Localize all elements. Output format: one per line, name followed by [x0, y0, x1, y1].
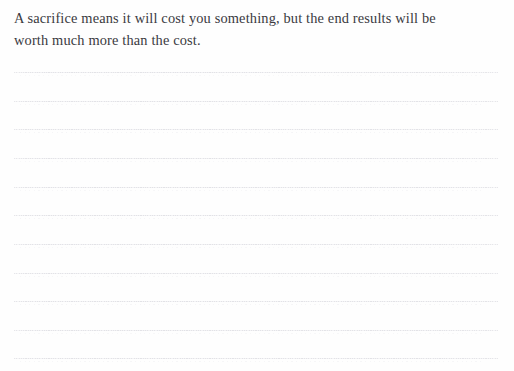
- ruled-line-ghost: [20, 361, 485, 362]
- quote-line-1: A sacrifice means it will cost you somet…: [14, 7, 492, 29]
- ruled-line: [14, 215, 498, 220]
- ruled-line-wash: [14, 215, 498, 216]
- ruled-line-ghost: [20, 276, 485, 277]
- quote-block: A sacrifice means it will cost you somet…: [14, 7, 492, 51]
- ruled-line: [14, 273, 498, 278]
- ruled-line-stroke: [14, 330, 498, 331]
- ruled-line-wash: [14, 330, 498, 331]
- ruled-line: [14, 101, 498, 106]
- ruled-line: [14, 72, 498, 77]
- ruled-line-stroke: [14, 358, 498, 359]
- ruled-line-stroke: [14, 101, 498, 102]
- ruled-line-ghost: [20, 161, 485, 162]
- journal-page: A sacrifice means it will cost you somet…: [0, 0, 514, 371]
- ruled-line-ghost: [20, 333, 485, 334]
- ruled-line-stroke: [14, 244, 498, 245]
- ruled-line: [14, 301, 498, 306]
- ruled-line: [14, 330, 498, 335]
- ruled-line-stroke: [14, 273, 498, 274]
- ruled-line: [14, 187, 498, 192]
- ruled-line-ghost: [20, 104, 485, 105]
- ruled-line-wash: [14, 273, 498, 274]
- ruled-line-stroke: [14, 129, 498, 130]
- ruled-line-ghost: [20, 132, 485, 133]
- ruled-line-stroke: [14, 215, 498, 216]
- ruled-lines-area: [0, 0, 514, 371]
- ruled-line-stroke: [14, 72, 498, 73]
- ruled-line: [14, 358, 498, 363]
- ruled-line-ghost: [20, 247, 485, 248]
- ruled-line-stroke: [14, 158, 498, 159]
- ruled-line-ghost: [20, 190, 485, 191]
- ruled-line-stroke: [14, 301, 498, 302]
- ruled-line-stroke: [14, 187, 498, 188]
- ruled-line-wash: [14, 101, 498, 102]
- ruled-line-wash: [14, 129, 498, 130]
- ruled-line-wash: [14, 158, 498, 159]
- ruled-line: [14, 129, 498, 134]
- paper-texture: [0, 0, 514, 371]
- ruled-line: [14, 158, 498, 163]
- ruled-line-wash: [14, 301, 498, 302]
- quote-line-2: worth much more than the cost.: [14, 29, 492, 51]
- ruled-line-ghost: [20, 304, 485, 305]
- ruled-line-wash: [14, 72, 498, 73]
- ruled-line-wash: [14, 358, 498, 359]
- ruled-line-ghost: [20, 218, 485, 219]
- ruled-line-ghost: [20, 75, 485, 76]
- ruled-line-wash: [14, 187, 498, 188]
- ruled-line: [14, 244, 498, 249]
- ruled-line-wash: [14, 244, 498, 245]
